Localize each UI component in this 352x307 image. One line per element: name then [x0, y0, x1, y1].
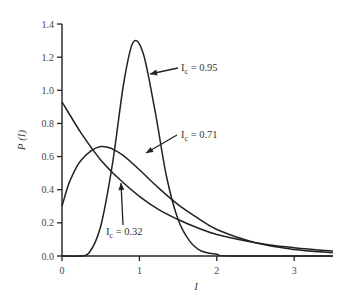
- pdf-chart: 0.00.20.40.60.81.01.21.40123IP (I) Ic = …: [0, 0, 352, 307]
- axes: 0.00.20.40.60.81.01.21.40123IP (I): [15, 19, 333, 292]
- y-axis-title: P (I): [15, 130, 28, 152]
- arrow-head-icon: [118, 183, 124, 190]
- y-tick-label: 0.4: [42, 184, 55, 195]
- x-tick-label: 3: [292, 265, 297, 276]
- x-tick-label: 0: [60, 265, 65, 276]
- y-tick-label: 0.2: [42, 217, 55, 228]
- x-axis-title: I: [193, 280, 199, 292]
- curve-ic-032: [62, 102, 333, 251]
- x-tick-label: 2: [214, 265, 219, 276]
- y-tick-label: 0.8: [42, 118, 55, 129]
- label-ic-032: Ic = 0.32: [106, 226, 143, 240]
- arrow-head-icon: [150, 70, 157, 76]
- x-tick-label: 1: [137, 265, 142, 276]
- y-tick-label: 1.0: [42, 85, 55, 96]
- y-tick-label: 0.0: [42, 251, 55, 262]
- label-ic-095: Ic = 0.95: [181, 62, 218, 76]
- label-ic-071: Ic = 0.71: [181, 129, 218, 143]
- y-tick-label: 0.6: [42, 151, 55, 162]
- y-tick-label: 1.2: [42, 52, 55, 63]
- y-tick-label: 1.4: [42, 19, 55, 30]
